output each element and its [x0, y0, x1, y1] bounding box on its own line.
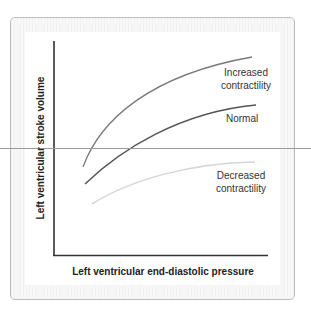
horizontal-rule: [0, 148, 311, 149]
label-line: Normal: [226, 112, 258, 125]
label-line: contractility: [221, 79, 271, 92]
y-axis-label: Left ventricular stroke volume: [35, 77, 46, 220]
label-line: Increased: [221, 66, 271, 79]
label-normal: Normal: [226, 112, 258, 125]
label-increased-contractility: Increased contractility: [221, 66, 271, 92]
label-line: contractility: [216, 182, 266, 195]
x-axis-label: Left ventricular end-diastolic pressure: [72, 266, 254, 277]
plot-area: [0, 0, 311, 311]
label-line: Decreased: [216, 169, 266, 182]
label-decreased-contractility: Decreased contractility: [216, 169, 266, 195]
